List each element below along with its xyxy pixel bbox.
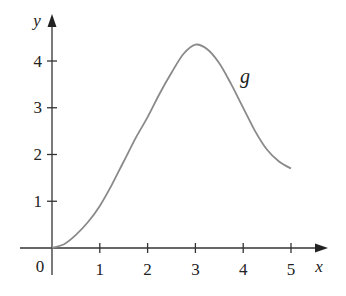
x-tick-label: 4 bbox=[239, 260, 248, 279]
x-axis-arrow-icon bbox=[315, 244, 328, 253]
y-tick-label: 4 bbox=[34, 52, 43, 71]
y-tick-label: 2 bbox=[34, 145, 43, 164]
y-tick-label: 3 bbox=[34, 98, 43, 117]
x-axis-label: x bbox=[314, 257, 323, 276]
chart-canvas: 1 2 3 4 5 1 2 3 4 0 x y g bbox=[0, 0, 346, 296]
x-tick-label: 5 bbox=[287, 260, 296, 279]
curve-g bbox=[52, 44, 291, 248]
x-tick-label: 3 bbox=[191, 260, 200, 279]
curve-label: g bbox=[240, 65, 250, 88]
origin-label: 0 bbox=[36, 257, 45, 276]
y-axis-arrow-icon bbox=[48, 14, 57, 27]
x-tick-label: 1 bbox=[96, 260, 105, 279]
y-axis-label: y bbox=[31, 11, 41, 30]
x-tick-label: 2 bbox=[143, 260, 152, 279]
y-tick-label: 1 bbox=[34, 192, 43, 211]
